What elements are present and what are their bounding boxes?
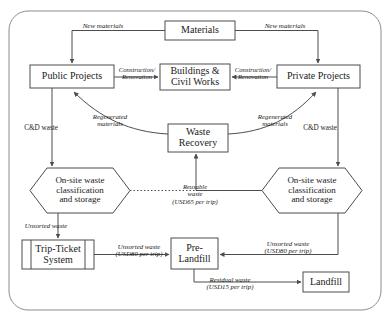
node-shape-onsite-left[interactable] <box>30 168 130 213</box>
edge-label-cd-waste-right: C&D waste <box>295 125 345 133</box>
edge-label-regenerated-right: Regenerated materials <box>249 113 301 128</box>
edge-label-construction-right: Construction/ Renovation <box>230 66 276 81</box>
node-shape-landfill[interactable] <box>303 272 349 292</box>
edge-label-unsorted-waste-left: Unsorted waste (USD80 per trip) <box>106 243 172 258</box>
node-shape-waste-recovery[interactable] <box>168 124 228 152</box>
edge-label-new-materials-left: New materials <box>70 23 136 31</box>
node-shape-buildings-civil-works[interactable] <box>160 64 230 90</box>
edge-label-new-materials-right: New materials <box>252 23 318 31</box>
edge-label-unsorted-waste-hex: Unsorted waste <box>14 222 78 229</box>
edge-label-unsorted-waste-right: Unsorted waste (USD80 per trip) <box>255 240 321 255</box>
node-shape-onsite-right[interactable] <box>262 168 362 213</box>
edge-materials-to-private <box>235 31 318 64</box>
diagram-svg <box>0 0 390 322</box>
diagram-canvas: MaterialsPublic ProjectsBuildings & Civi… <box>0 0 390 322</box>
node-shape-private-projects[interactable] <box>277 65 360 88</box>
edge-materials-to-public <box>72 31 165 64</box>
node-shape-trip-ticket[interactable] <box>22 240 94 269</box>
node-shape-public-projects[interactable] <box>30 65 114 88</box>
node-shape-pre-landfill[interactable] <box>171 238 218 269</box>
edge-label-construction-left: Construction/ Renovation <box>114 66 160 81</box>
edge-label-regenerated-left: Regenerated materials <box>84 113 136 128</box>
edge-label-reusable-waste: Reusable waste (USD65 per trip) <box>158 183 232 205</box>
edge-label-residual-waste: Residual waste (USD15 per trip) <box>197 276 263 291</box>
edge-label-cd-waste-left: C&D waste <box>16 125 66 133</box>
node-shape-materials[interactable] <box>165 21 235 40</box>
